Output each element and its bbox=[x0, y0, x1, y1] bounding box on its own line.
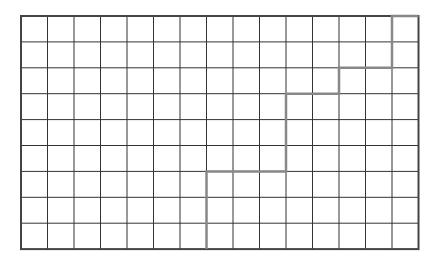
grid-border bbox=[21, 16, 419, 249]
staircase-grid-diagram bbox=[0, 0, 436, 263]
grid-lines bbox=[21, 16, 419, 249]
